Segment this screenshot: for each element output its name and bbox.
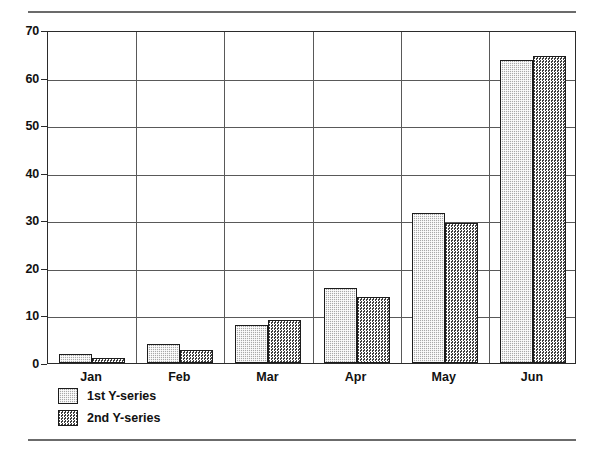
gridline-vertical bbox=[224, 32, 225, 363]
x-tick-label-jun: Jun bbox=[521, 370, 543, 384]
chart-legend: 1st Y-series2nd Y-series bbox=[58, 387, 160, 426]
x-tick-label-feb: Feb bbox=[168, 370, 190, 384]
bar-apr-series1 bbox=[324, 288, 357, 363]
y-tick-label: 10 bbox=[5, 309, 39, 323]
gridline-horizontal bbox=[48, 222, 575, 223]
gridline-horizontal bbox=[48, 80, 575, 81]
gridline-horizontal bbox=[48, 127, 575, 128]
x-tick-label-mar: Mar bbox=[256, 370, 278, 384]
bar-mar-series1 bbox=[235, 325, 268, 363]
gridline-horizontal bbox=[48, 175, 575, 176]
bar-jan-series2 bbox=[92, 358, 125, 363]
legend-label-series1: 1st Y-series bbox=[87, 389, 156, 403]
gridline-vertical bbox=[313, 32, 314, 363]
bar-jun-series1 bbox=[500, 60, 533, 364]
gridline-vertical bbox=[136, 32, 137, 363]
y-tick-mark bbox=[41, 364, 47, 365]
legend-item-1: 1st Y-series bbox=[58, 387, 160, 404]
bar-jan-series1 bbox=[59, 354, 92, 364]
top-rule bbox=[28, 11, 576, 13]
x-tick-label-jan: Jan bbox=[80, 370, 102, 384]
legend-swatch-series2 bbox=[58, 410, 78, 426]
gridline-horizontal bbox=[48, 270, 575, 271]
legend-item-2: 2nd Y-series bbox=[58, 409, 160, 426]
y-tick-label: 60 bbox=[5, 72, 39, 86]
y-tick-label: 50 bbox=[5, 119, 39, 133]
y-tick-label: 40 bbox=[5, 167, 39, 181]
y-tick-label: 0 bbox=[5, 357, 39, 371]
x-tick-label-may: May bbox=[432, 370, 456, 384]
y-tick-label: 70 bbox=[5, 24, 39, 38]
bar-mar-series2 bbox=[268, 320, 301, 363]
y-tick-label: 30 bbox=[5, 214, 39, 228]
bar-may-series2 bbox=[445, 223, 478, 363]
bar-chart-figure: 010203040506070 JanFebMarAprMayJun 1st Y… bbox=[0, 0, 590, 454]
gridline-horizontal bbox=[48, 317, 575, 318]
legend-swatch-series1 bbox=[58, 388, 78, 404]
bar-feb-series1 bbox=[147, 344, 180, 363]
bottom-rule bbox=[28, 439, 576, 441]
bar-may-series1 bbox=[412, 213, 445, 363]
bar-apr-series2 bbox=[357, 297, 390, 363]
x-tick-label-apr: Apr bbox=[345, 370, 367, 384]
bar-jun-series2 bbox=[533, 56, 566, 363]
gridline-vertical bbox=[401, 32, 402, 363]
bar-feb-series2 bbox=[180, 350, 213, 363]
plot-frame bbox=[47, 31, 576, 364]
y-tick-label: 20 bbox=[5, 262, 39, 276]
legend-label-series2: 2nd Y-series bbox=[87, 411, 160, 425]
gridline-vertical bbox=[489, 32, 490, 363]
plot-area bbox=[48, 32, 575, 363]
